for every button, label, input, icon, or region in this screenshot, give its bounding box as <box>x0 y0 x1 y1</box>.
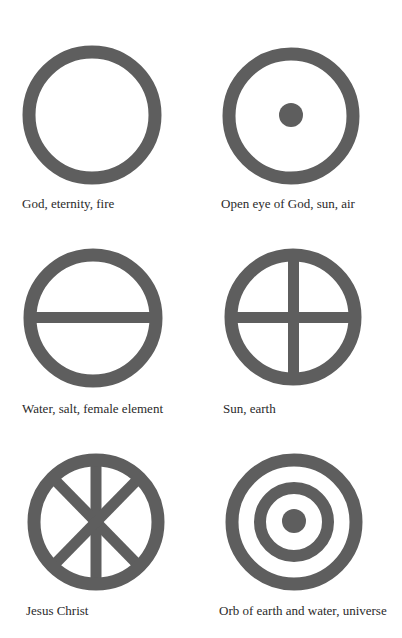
symbol-caption: Water, salt, female element <box>22 401 163 417</box>
symbol-caption: Open eye of God, sun, air <box>221 196 355 212</box>
circle-with-cross-icon <box>216 240 372 396</box>
circle-with-dot-icon <box>213 37 369 195</box>
symbol-caption: Orb of earth and water, universe <box>219 603 387 619</box>
concentric-circles-with-dot-icon <box>216 445 372 601</box>
circle-with-horizontal-bar-icon <box>16 240 172 396</box>
plain-circle-icon <box>15 36 171 194</box>
symbol-caption: Jesus Christ <box>26 603 88 619</box>
circle-with-chi-rho-cross-icon <box>20 445 176 601</box>
symbol-caption: God, eternity, fire <box>22 196 114 212</box>
symbol-caption: Sun, earth <box>223 401 276 417</box>
